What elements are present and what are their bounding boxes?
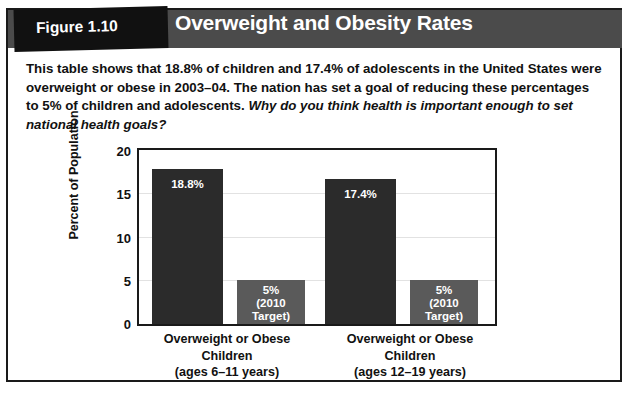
x-group-label-children: Overweight or Obese Children (ages 6–11 … bbox=[137, 331, 317, 381]
y-tick-label-5: 5 bbox=[105, 275, 131, 288]
bar-chart: Percent of Population 20 15 10 5 0 18.8%… bbox=[0, 0, 632, 393]
bar-label-children-target-line3: Target) bbox=[237, 310, 305, 323]
x-group-label-adolescents: Overweight or Obese Children (ages 12–19… bbox=[320, 331, 500, 381]
y-tick-label-20: 20 bbox=[105, 145, 131, 158]
y-tick-label-10: 10 bbox=[105, 232, 131, 245]
x-group-label-adolescents-line3: (ages 12–19 years) bbox=[320, 364, 500, 381]
bar-label-adolescents-target-line1: 5% bbox=[410, 284, 478, 297]
bar-label-children-target-line2: (2010 bbox=[237, 297, 305, 310]
figure-number-label: Figure 1.10 bbox=[36, 17, 118, 37]
y-tick-label-0: 0 bbox=[105, 318, 131, 331]
bar-children-actual[interactable]: 18.8% bbox=[152, 169, 223, 324]
x-group-label-adolescents-line2: Children bbox=[320, 348, 500, 365]
bar-label-children-target-line1: 5% bbox=[237, 284, 305, 297]
plot-area: 18.8% 5% (2010 Target) 17.4% 5% (2010 Ta… bbox=[137, 148, 497, 326]
x-group-label-adolescents-line1: Overweight or Obese bbox=[320, 331, 500, 348]
bar-adolescents-actual[interactable]: 17.4% bbox=[325, 179, 396, 324]
x-group-label-children-line1: Overweight or Obese bbox=[137, 331, 317, 348]
bar-adolescents-target[interactable]: 5% (2010 Target) bbox=[410, 280, 478, 324]
figure-title: Overweight and Obesity Rates bbox=[175, 11, 473, 35]
x-group-label-children-line2: Children bbox=[137, 348, 317, 365]
bar-label-adolescents-target-line2: (2010 bbox=[410, 297, 478, 310]
bar-children-target[interactable]: 5% (2010 Target) bbox=[237, 280, 305, 324]
y-tick-label-15: 15 bbox=[105, 188, 131, 201]
bar-label-children-actual: 18.8% bbox=[152, 178, 223, 191]
bar-label-adolescents-actual: 17.4% bbox=[325, 188, 396, 201]
x-group-label-children-line3: (ages 6–11 years) bbox=[137, 364, 317, 381]
y-axis-title: Percent of Population bbox=[67, 95, 81, 255]
bar-label-adolescents-target-line3: Target) bbox=[410, 310, 478, 323]
